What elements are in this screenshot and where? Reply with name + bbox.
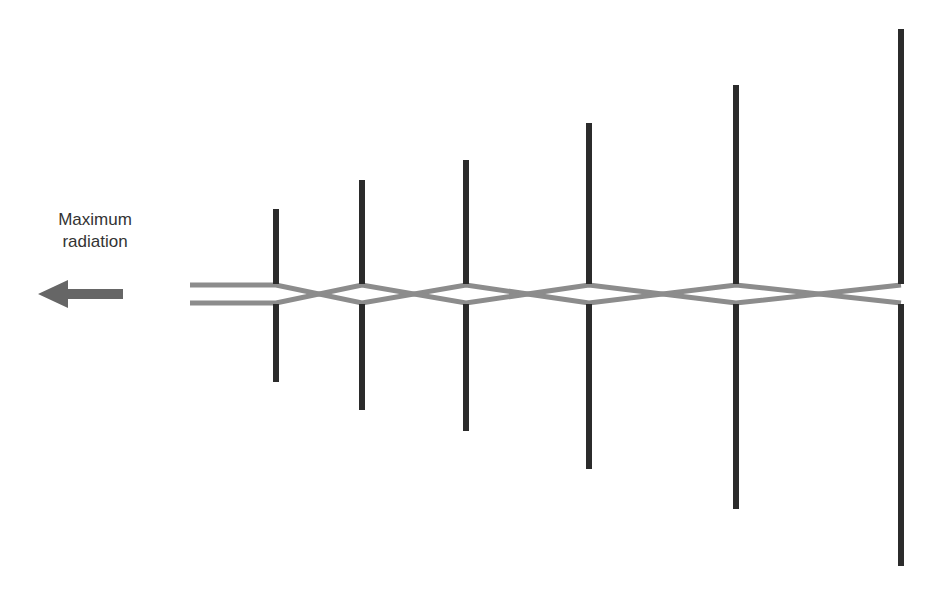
direction-arrow-icon bbox=[38, 280, 123, 308]
feed-line bbox=[190, 285, 901, 303]
arrow-shape bbox=[38, 280, 123, 308]
antenna-diagram bbox=[0, 0, 934, 589]
